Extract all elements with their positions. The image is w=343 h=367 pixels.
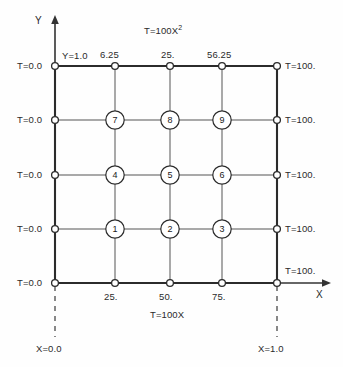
- node-label-9: 9: [213, 111, 231, 129]
- bottom-tick-label-2: 50.: [159, 291, 173, 302]
- bottom-tick-label-3: 75.: [212, 291, 226, 302]
- left-boundary-label-2: T=0.0: [17, 114, 42, 125]
- top-tick-label-1: 6.25: [100, 49, 119, 60]
- node-label-6: 6: [213, 166, 231, 184]
- left-boundary-label-4: T=0.0: [17, 223, 42, 234]
- right-boundary-label-3: T=100.: [285, 169, 315, 180]
- right-boundary-label-2: T=100.: [285, 114, 315, 125]
- node-label-1: 1: [106, 220, 124, 238]
- right-boundary-label-5: T=100.: [285, 265, 315, 276]
- bottom-boundary-equation: T=100X: [150, 309, 184, 320]
- right-boundary-label-1: T=100.: [285, 60, 315, 71]
- node-label-4: 4: [106, 166, 124, 184]
- node-label-5: 5: [161, 166, 179, 184]
- top-tick-label-2: 25.: [161, 49, 175, 60]
- top-boundary-equation-text: T=100X: [144, 25, 178, 36]
- y-axis-label: Y: [35, 15, 42, 26]
- left-boundary-label-5: T=0.0: [17, 277, 42, 288]
- top-tick-label-3: 56.25: [207, 49, 231, 60]
- left-boundary-label-3: T=0.0: [17, 169, 42, 180]
- grid-diagram: 1 2 3 4 5 6 7 8 9 Y X T=100X2 T=100X Y=1…: [0, 0, 343, 367]
- top-boundary-equation: T=100X2: [144, 25, 182, 36]
- top-boundary-equation-exponent: 2: [178, 24, 182, 31]
- x-right-extent-label: X=1.0: [258, 343, 284, 354]
- y-extent-label: Y=1.0: [62, 50, 88, 61]
- left-boundary-label-1: T=0.0: [17, 60, 42, 71]
- node-label-8: 8: [161, 111, 179, 129]
- node-label-2: 2: [161, 220, 179, 238]
- node-label-3: 3: [213, 220, 231, 238]
- bottom-tick-label-1: 25.: [104, 291, 118, 302]
- x-left-extent-label: X=0.0: [36, 343, 62, 354]
- right-boundary-label-4: T=100.: [285, 223, 315, 234]
- x-axis-label: X: [316, 289, 323, 300]
- node-label-7: 7: [106, 111, 124, 129]
